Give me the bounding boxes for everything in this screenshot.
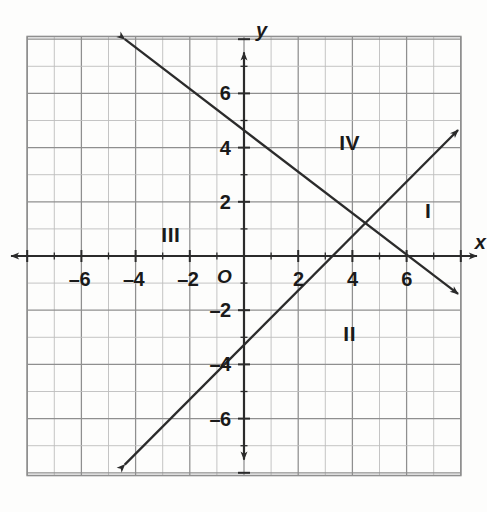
y-tick-label-4: –4 [209,354,230,374]
x-tick-label-1: –4 [123,269,144,289]
plotted-line-ascending-line [125,130,458,465]
x-tick-label-2: –2 [177,269,198,289]
y-tick-label-1: 4 [220,138,231,158]
x-tick-label-0: –6 [69,269,90,289]
y-tick-label-2: 2 [220,192,231,212]
quadrant-label-i: I [425,199,431,220]
y-tick-label-5: –6 [209,409,230,429]
origin-label: O [217,267,232,286]
x-tick-label-3: 2 [293,269,304,289]
quadrant-label-iv: IV [339,132,360,153]
y-tick-label-0: 6 [220,83,231,103]
y-tick-label-3: –2 [209,300,230,320]
y-axis-label: y [256,20,267,40]
graph-canvas [0,0,487,512]
coordinate-plane-figure: x y O –6–4–2246642–2–4–6IIIIIIIV [0,0,487,512]
x-axis-label: x [475,232,486,252]
x-tick-label-4: 4 [347,269,358,289]
x-tick-label-5: 6 [401,269,412,289]
quadrant-label-ii: II [343,323,356,344]
plotted-lines [125,39,458,464]
quadrant-label-iii: III [161,224,180,245]
